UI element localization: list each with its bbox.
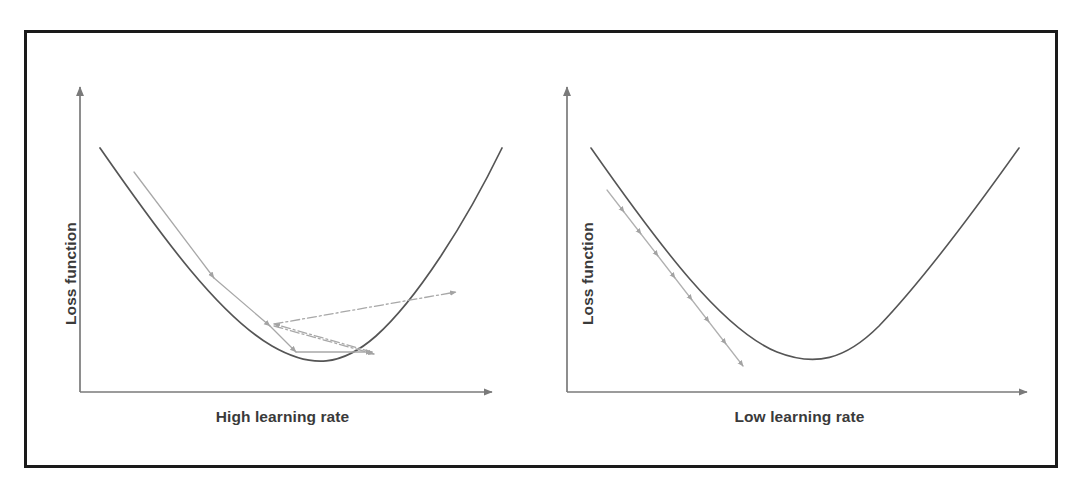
step-segment-6	[692, 300, 709, 322]
step-segment-5	[675, 278, 692, 300]
panel-low-learning-rate: Low learning rate Loss function	[541, 30, 1058, 468]
y-axis-label-loss-function-right: Loss function	[579, 222, 597, 325]
loss-curve	[591, 148, 1019, 359]
gradient-descent-path	[134, 172, 456, 354]
step-segment-1	[607, 190, 624, 212]
step-segment-7	[709, 322, 726, 344]
step-segment-5-overshoot-up	[274, 324, 372, 352]
step-segment-3	[270, 326, 296, 352]
loss-curve	[100, 148, 502, 361]
step-segment-6-overshoot-far-right	[274, 292, 456, 324]
step-segment-2	[214, 278, 270, 326]
panel-high-learning-rate: High learning rate Loss function	[24, 30, 541, 468]
step-segment-7-overshoot-back	[274, 326, 374, 354]
step-segment-8	[726, 344, 743, 366]
x-axis-label-low-learning-rate: Low learning rate	[541, 408, 1058, 426]
gradient-descent-path	[607, 190, 743, 366]
high-learning-rate-plot	[24, 30, 541, 468]
x-axis-label-high-learning-rate: High learning rate	[24, 408, 541, 426]
figure-root: High learning rate Loss function	[0, 0, 1081, 493]
y-axis-label-loss-function-left: Loss function	[62, 222, 80, 325]
step-segment-1	[134, 172, 214, 278]
low-learning-rate-plot	[541, 30, 1058, 468]
